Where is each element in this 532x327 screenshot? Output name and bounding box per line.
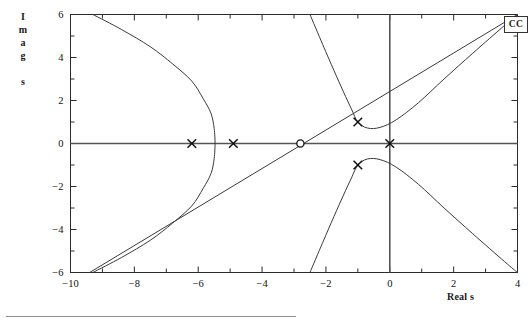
y-tick-label: 2 [58, 95, 63, 106]
x-tick-label: −6 [193, 278, 204, 289]
x-axis-title: Real s [447, 291, 474, 302]
zero-marker [297, 140, 304, 147]
y-axis-title-char: s [14, 75, 32, 88]
plot-canvas: −10−8−6−4−20246420−2−4−6 [0, 0, 532, 327]
y-tick-label: −2 [52, 181, 63, 192]
x-tick-label: −4 [256, 278, 268, 289]
x-tick-label: −10 [62, 278, 78, 289]
x-tick-label: 4 [515, 278, 521, 289]
pole-marker [354, 118, 363, 127]
y-tick-label: −4 [52, 224, 64, 235]
y-tick-label: −6 [52, 267, 63, 278]
y-tick-label: 4 [58, 52, 64, 63]
footer-rule [6, 316, 296, 317]
y-tick-label: 0 [58, 138, 63, 149]
y-axis-title: Imags [14, 10, 32, 88]
x-tick-label: −2 [320, 278, 331, 289]
y-axis-title-char: a [14, 36, 32, 49]
y-axis-title-char: m [14, 23, 32, 36]
pole-marker [354, 161, 363, 170]
x-tick-label: −8 [129, 278, 140, 289]
cc-badge: CC [504, 16, 528, 33]
x-tick-label: 0 [387, 278, 392, 289]
locus-left-parabola-upper [93, 15, 215, 144]
y-axis-title-char: I [14, 10, 32, 23]
y-axis-title-char: g [14, 49, 32, 62]
locus-complex-branch-lower [310, 158, 518, 272]
locus-complex-branch-upper [310, 15, 518, 129]
x-tick-label: 2 [451, 278, 456, 289]
y-tick-label: 6 [58, 9, 63, 20]
root-locus-figure: −10−8−6−4−20246420−2−4−6 Imags Real s CC [0, 0, 532, 327]
y-axis-title-gap [14, 62, 32, 75]
